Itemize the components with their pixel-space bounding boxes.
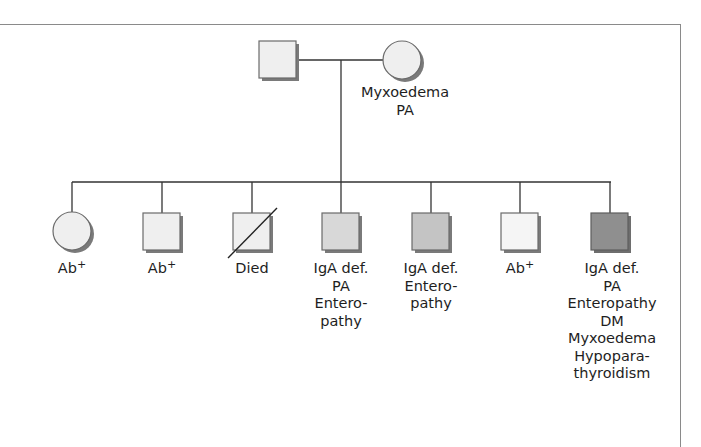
- child-2-symbol: [143, 213, 183, 253]
- child-6-label: Ab+: [506, 260, 534, 278]
- child-5-symbol: [412, 213, 452, 253]
- label-line: pathy: [404, 295, 459, 313]
- child-1-label: Ab+: [58, 260, 86, 278]
- child-3-label: Died: [235, 260, 268, 278]
- label-line: Myxoedema: [361, 84, 449, 102]
- child-4-label: IgA def. PA Entero- pathy: [314, 260, 369, 330]
- label-line: IgA def.: [404, 260, 459, 278]
- pedigree-figure: Myxoedema PA Ab+ Ab+ Died IgA def. PA En…: [0, 0, 701, 447]
- child-drop-lines: [72, 182, 610, 213]
- mother-label: Myxoedema PA: [361, 84, 449, 119]
- label-line: Died: [235, 260, 268, 278]
- child-6-symbol: [501, 213, 541, 253]
- label-line: PA: [361, 102, 449, 120]
- label-line: Ab+: [58, 260, 86, 278]
- child-7-label: IgA def. PA Enteropathy DM Myxoedema Hyp…: [567, 260, 656, 383]
- label-line: Ab+: [506, 260, 534, 278]
- child-2-label: Ab+: [148, 260, 176, 278]
- label-line: DM: [567, 313, 656, 331]
- label-line: thyroidism: [567, 365, 656, 383]
- label-line: IgA def.: [314, 260, 369, 278]
- label-line: Myxoedema: [567, 330, 656, 348]
- child-7-symbol: [591, 213, 631, 253]
- father-symbol: [259, 41, 299, 81]
- label-line: Entero-: [404, 278, 459, 296]
- mother-symbol: [383, 41, 424, 82]
- label-line: pathy: [314, 313, 369, 331]
- label-line: Enteropathy: [567, 295, 656, 313]
- child-3-symbol: [228, 208, 277, 258]
- label-line: Entero-: [314, 295, 369, 313]
- label-line: PA: [567, 278, 656, 296]
- label-line: IgA def.: [567, 260, 656, 278]
- child-5-label: IgA def. Entero- pathy: [404, 260, 459, 313]
- label-line: PA: [314, 278, 369, 296]
- child-1-symbol: [53, 212, 94, 253]
- label-line: Ab+: [148, 260, 176, 278]
- label-line: Hypopara-: [567, 348, 656, 366]
- child-4-symbol: [322, 213, 362, 253]
